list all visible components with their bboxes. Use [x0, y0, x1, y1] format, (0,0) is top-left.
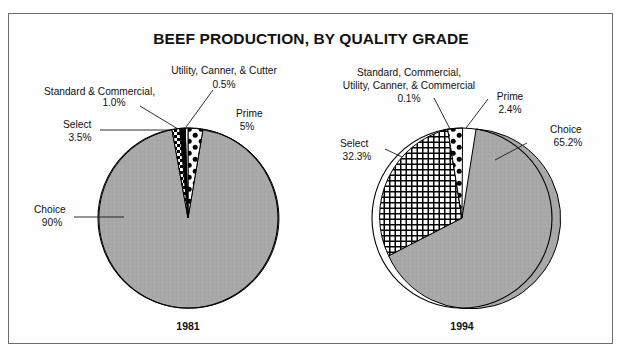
label-1994-standard-line2: Utility, Canner, & Commercial — [343, 80, 475, 91]
page-title: BEEF PRODUCTION, BY QUALITY GRADE — [153, 30, 468, 47]
beef-production-pie-charts: BEEF PRODUCTION, BY QUALITY GRADE Standa… — [0, 0, 622, 357]
label-1981-standard-commercial-pct: 1.0% — [102, 97, 125, 108]
label-1994-standard-pct: 0.1% — [397, 93, 420, 104]
leader-1981-utility — [186, 90, 213, 127]
label-1994-select-pct: 32.3% — [343, 151, 372, 162]
pie-chart-1994 — [372, 128, 561, 309]
label-1981-prime: Prime — [236, 108, 263, 119]
label-1994-select: Select — [340, 138, 368, 149]
label-1994-prime-pct: 2.4% — [498, 104, 521, 115]
label-1994-choice-pct: 65.2% — [554, 137, 583, 148]
label-1981-select: Select — [63, 119, 91, 130]
label-1981-utility-pct: 0.5% — [212, 79, 235, 90]
label-1981-choice-pct: 90% — [42, 217, 62, 228]
label-1994-prime: Prime — [497, 91, 524, 102]
label-1981-prime-pct: 5% — [240, 121, 255, 132]
label-1981-select-pct: 3.5% — [68, 132, 91, 143]
leader-1994-prime — [466, 99, 488, 128]
year-label-1981: 1981 — [176, 320, 200, 332]
leader-1981-standard — [140, 106, 178, 129]
label-1994-standard-line1: Standard, Commercial, — [357, 67, 461, 78]
label-1981-choice: Choice — [34, 204, 66, 215]
leader-1994-standard — [434, 98, 450, 129]
label-1994-choice: Choice — [550, 124, 582, 135]
year-label-1994: 1994 — [450, 320, 474, 332]
label-1981-utility: Utility, Canner, & Cutter — [171, 65, 277, 76]
pie-chart-1981 — [98, 128, 279, 308]
chart-page: BEEF PRODUCTION, BY QUALITY GRADE Standa… — [0, 0, 622, 357]
label-1981-standard-commercial: Standard & Commercial, — [44, 86, 155, 97]
